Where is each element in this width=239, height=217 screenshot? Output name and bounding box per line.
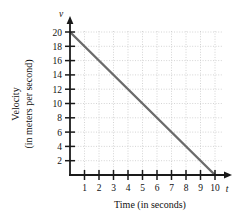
x-tick-label: 6 (155, 183, 160, 193)
x-tick-label: 7 (169, 183, 174, 193)
x-tick-label: 1 (82, 183, 87, 193)
y-tick-label: 2 (57, 156, 62, 166)
y-tick-label: 12 (53, 85, 63, 95)
x-tick-label: 9 (198, 183, 203, 193)
x-tick-label: 5 (140, 183, 145, 193)
x-tick-label: 3 (111, 183, 116, 193)
y-tick-label: 8 (57, 113, 62, 123)
x-tick-label: 10 (210, 183, 220, 193)
x-tick-label: 4 (126, 183, 131, 193)
x-axis-title: Time (in seconds) (114, 199, 186, 211)
x-tick-label: 2 (97, 183, 102, 193)
y-tick-label: 16 (53, 56, 63, 66)
x-tick-label: 8 (184, 183, 189, 193)
velocity-time-graph: 2 4 6 8 10 12 14 16 18 20 1 2 3 4 5 6 7 … (0, 0, 239, 217)
y-tick-label: 10 (53, 99, 63, 109)
y-axis-title-line2: (in meters per second) (23, 59, 35, 148)
y-tick-label: 6 (57, 128, 62, 138)
x-axis-variable-label: t (226, 184, 229, 194)
figure-background (0, 0, 239, 217)
y-axis-title-line1: Velocity (10, 87, 21, 120)
y-tick-label: 20 (53, 28, 63, 38)
y-tick-label: 18 (53, 42, 63, 52)
y-tick-label: 4 (57, 142, 62, 152)
y-tick-label: 14 (53, 70, 63, 80)
